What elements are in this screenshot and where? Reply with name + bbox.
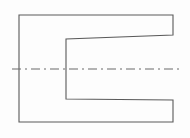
drawing-svg-root (0, 0, 190, 138)
technical-drawing-canvas (0, 0, 190, 138)
